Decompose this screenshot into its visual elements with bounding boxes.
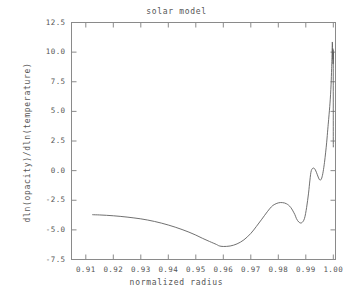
- y-tick-label: 2.5: [32, 136, 66, 145]
- y-tick-label: 5.0: [32, 106, 66, 115]
- y-tick-label: 7.5: [32, 77, 66, 86]
- y-tick-label: 0.0: [32, 166, 66, 175]
- chart-figure: solar model dln(opacity)/dln(temperature…: [0, 0, 353, 299]
- y-tick-label: 12.5: [32, 18, 66, 27]
- y-tick-label: -2.5: [32, 195, 66, 204]
- y-tick-label: -5.0: [32, 225, 66, 234]
- y-tick-label: 10.0: [32, 47, 66, 56]
- plot-frame: [72, 23, 336, 260]
- x-tick-label: 1.00: [316, 265, 350, 274]
- y-tick-label: -7.5: [32, 255, 66, 264]
